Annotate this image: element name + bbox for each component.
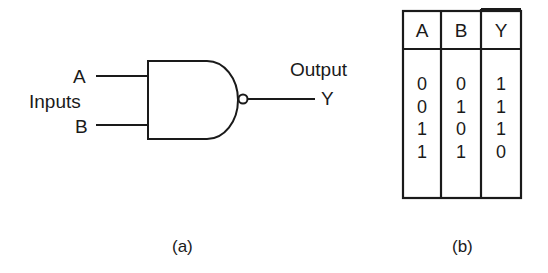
table-cell: 1 xyxy=(481,118,521,141)
caption-a: (a) xyxy=(172,237,193,257)
nand-gate-body xyxy=(148,61,238,139)
table-cell: 0 xyxy=(403,73,441,96)
table-cell: 0 xyxy=(481,141,521,164)
table-cell: 1 xyxy=(481,73,521,96)
table-cell: 0 xyxy=(403,96,441,119)
table-cell: 1 xyxy=(441,141,481,164)
inversion-bubble xyxy=(239,95,248,104)
table-column-y: 1 1 1 0 xyxy=(481,73,521,164)
output-y-label: Y xyxy=(321,89,334,108)
table-cell: 1 xyxy=(481,96,521,119)
table-cell: 1 xyxy=(441,96,481,119)
table-header-y: Y xyxy=(481,20,521,42)
table-cell: 1 xyxy=(403,141,441,164)
table-cell: 0 xyxy=(441,118,481,141)
table-column-b: 0 1 0 1 xyxy=(441,73,481,164)
table-header-a: A xyxy=(403,20,441,42)
output-label: Output xyxy=(290,60,347,79)
caption-b: (b) xyxy=(452,237,473,257)
inputs-label: Inputs xyxy=(29,92,81,111)
input-b-label: B xyxy=(75,117,88,136)
table-header-b: B xyxy=(441,20,481,42)
table-cell: 0 xyxy=(441,73,481,96)
table-cell: 1 xyxy=(403,118,441,141)
table-column-a: 0 0 1 1 xyxy=(403,73,441,164)
input-a-label: A xyxy=(73,67,86,86)
